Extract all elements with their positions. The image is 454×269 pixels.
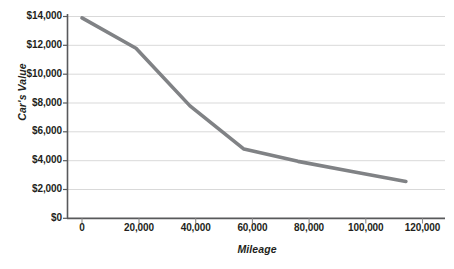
y-tick-label-8000: $8,000: [0, 97, 62, 108]
y-tick-label-2000: $2,000: [0, 183, 62, 194]
y-tick-label-12000: $12,000: [0, 39, 62, 50]
data-series-line: [82, 18, 406, 182]
y-tick-label-4000: $4,000: [0, 154, 62, 165]
y-tick-label-6000: $6,000: [0, 125, 62, 136]
line-chart: Car's Value $14,000 $12,000 $10,000 $8,0…: [0, 0, 454, 269]
y-tick-label-14000: $14,000: [0, 10, 62, 21]
y-tick-label-10000: $10,000: [0, 68, 62, 79]
x-tick-label-120000: 120,000: [388, 222, 454, 233]
x-axis-title: Mileage: [67, 243, 447, 255]
